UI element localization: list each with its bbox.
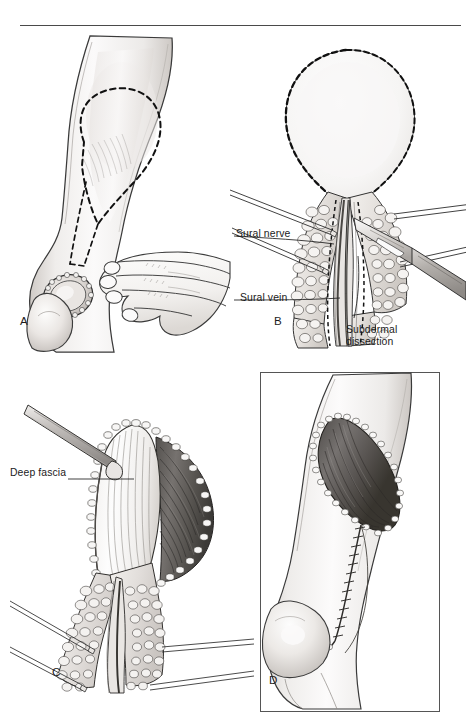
label-sural-nerve: Sural nerve [236, 228, 290, 240]
top-horizontal-rule [20, 25, 461, 26]
panel-letter-b: B [274, 314, 282, 327]
panel-letter-d: D [269, 673, 278, 686]
panel-a-artwork [18, 32, 230, 354]
leader-subdermal-dissection [354, 256, 359, 318]
panel-b-artwork [236, 32, 466, 354]
panel-a-flap-design-and-palpation: A [18, 32, 230, 354]
panel-c-flap-elevation-deep-fascia: Deep fascia C [10, 395, 254, 695]
figure-canvas: A [0, 0, 466, 725]
panel-d-artwork [261, 373, 439, 711]
panel-b-subdermal-dissection: Sural nerve Sural vein Subdermal dissect… [236, 32, 466, 354]
panel-letter-a: A [20, 314, 28, 327]
pedicle-fat-walls [57, 563, 165, 693]
palpating-hand [99, 252, 230, 335]
panel-letter-c: C [52, 665, 61, 678]
label-sural-vein: Sural vein [240, 292, 287, 304]
panel-d-inset-box: D [260, 372, 440, 712]
label-subdermal-dissection-line-1: Subdermal [346, 324, 397, 335]
label-subdermal-dissection: Subdermal dissection [346, 324, 424, 349]
label-deep-fascia: Deep fascia [10, 467, 66, 479]
label-subdermal-dissection-line-2: dissection [346, 336, 393, 347]
panel-c-artwork [10, 395, 254, 695]
